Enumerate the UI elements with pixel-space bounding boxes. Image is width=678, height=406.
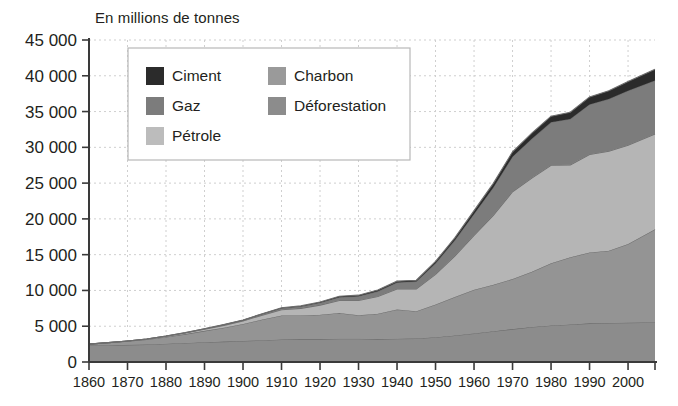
- x-axis-ticks: 1860187018801890190019101920193019401950…: [73, 362, 655, 390]
- y-tick-label: 20 000: [25, 210, 77, 229]
- x-tick-label: 1990: [573, 374, 605, 390]
- y-tick-label: 35 000: [25, 103, 77, 122]
- y-tick-label: 25 000: [25, 174, 77, 193]
- x-tick-label: 1940: [381, 374, 413, 390]
- chart-legend: CimentCharbonGazDéforestationPétrole: [128, 48, 410, 160]
- legend-label-charbon: Charbon: [294, 67, 353, 84]
- y-tick-label: 5 000: [34, 317, 77, 336]
- legend-swatch-ptrole: [146, 127, 164, 145]
- legend-swatch-dforestation: [268, 97, 286, 115]
- x-tick-label: 1910: [265, 374, 297, 390]
- x-tick-label: 1900: [227, 374, 259, 390]
- x-tick-label: 1950: [419, 374, 451, 390]
- y-axis-ticks: 05 00010 00015 00020 00025 00030 00035 0…: [25, 31, 89, 372]
- y-tick-label: 0: [68, 353, 77, 372]
- legend-label-ptrole: Pétrole: [172, 127, 221, 144]
- chart-container: En millions de tonnes 05 00010 00015 000…: [0, 0, 678, 406]
- y-tick-label: 40 000: [25, 67, 77, 86]
- x-tick-label: 2000: [612, 374, 644, 390]
- legend-label-gaz: Gaz: [172, 97, 200, 114]
- legend-swatch-gaz: [146, 97, 164, 115]
- y-tick-label: 15 000: [25, 246, 77, 265]
- x-tick-label: 1920: [304, 374, 336, 390]
- x-tick-label: 1880: [150, 374, 182, 390]
- x-tick-label: 1980: [535, 374, 567, 390]
- legend-swatch-ciment: [146, 67, 164, 85]
- y-tick-label: 30 000: [25, 138, 77, 157]
- x-tick-label: 1970: [496, 374, 528, 390]
- x-tick-label: 1960: [458, 374, 490, 390]
- y-tick-label: 10 000: [25, 281, 77, 300]
- x-tick-label: 1890: [188, 374, 220, 390]
- x-tick-label: 1870: [111, 374, 143, 390]
- stacked-area-chart: 05 00010 00015 00020 00025 00030 00035 0…: [0, 0, 678, 406]
- legend-label-ciment: Ciment: [172, 67, 222, 84]
- y-tick-label: 45 000: [25, 31, 77, 50]
- x-tick-label: 1930: [342, 374, 374, 390]
- x-tick-label: 1860: [73, 374, 105, 390]
- legend-swatch-charbon: [268, 67, 286, 85]
- legend-label-dforestation: Déforestation: [294, 97, 386, 114]
